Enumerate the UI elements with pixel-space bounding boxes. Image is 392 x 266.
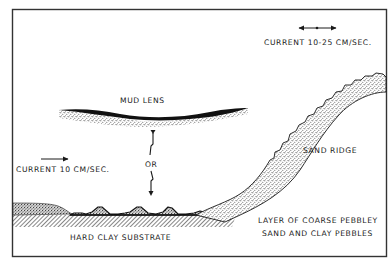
sand-ridge-label: SAND RIDGE bbox=[303, 147, 357, 155]
mud-lens-label: MUD LENS bbox=[120, 97, 165, 105]
current-slow-label: CURRENT 10 CM/SEC. bbox=[16, 166, 110, 174]
current-fast-label: CURRENT 10-25 CM/SEC. bbox=[264, 39, 372, 47]
sediment-diagram: CURRENT 10-25 CM/SEC. MUD LENS OR CURREN… bbox=[0, 0, 392, 266]
pebble-ripples-shape bbox=[70, 207, 205, 215]
substrate-label: HARD CLAY SUBSTRATE bbox=[70, 234, 171, 242]
left-sand-sheet-shape bbox=[13, 203, 72, 215]
mud-lens-shape bbox=[59, 108, 248, 127]
current-fast-arrow-icon bbox=[299, 27, 336, 30]
sand-ridge-shape bbox=[196, 73, 386, 222]
pebble-layer-label-line1: LAYER OF COARSE PEBBLEY bbox=[258, 217, 378, 225]
or-label: OR bbox=[145, 161, 157, 169]
pebble-layer-label-line2: SAND AND CLAY PEBBLES bbox=[262, 230, 373, 238]
